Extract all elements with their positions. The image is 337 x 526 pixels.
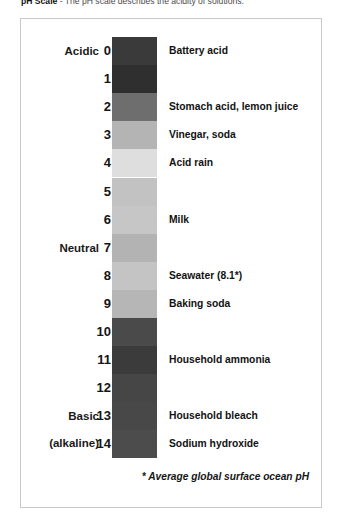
substance-label: Baking soda — [169, 297, 321, 310]
ph-color-band — [112, 262, 157, 290]
footnote: * Average global surface ocean pH — [21, 471, 309, 482]
ph-row: (alkaline)14Sodium hydroxide — [21, 430, 323, 458]
caption-title: pH Scale — [21, 0, 57, 6]
ph-row: 2Stomach acid, lemon juice — [21, 93, 323, 121]
ph-color-band — [112, 206, 157, 234]
ph-value: 14 — [87, 436, 111, 451]
ph-value: 11 — [87, 352, 111, 367]
ph-row: 1 — [21, 65, 323, 93]
substance-label: Vinegar, soda — [169, 128, 321, 141]
ph-color-band — [112, 318, 157, 346]
caption-separator: - — [57, 0, 64, 6]
ph-value: 6 — [87, 212, 111, 227]
ph-color-band — [112, 121, 157, 149]
ph-row: 12 — [21, 374, 323, 402]
ph-row: 6Milk — [21, 206, 323, 234]
substance-label: Acid rain — [169, 156, 321, 169]
ph-value: 1 — [87, 71, 111, 86]
ph-row: 8Seawater (8.1*) — [21, 262, 323, 290]
ph-row: 9Baking soda — [21, 290, 323, 318]
ph-row: 3Vinegar, soda — [21, 121, 323, 149]
ph-color-band — [112, 93, 157, 121]
ph-color-band — [112, 178, 157, 206]
figure-caption: pH Scale - The pH scale describes the ac… — [21, 0, 321, 7]
ph-scale-rows: Acidic0Battery acid12Stomach acid, lemon… — [21, 37, 323, 459]
ph-color-band — [112, 37, 157, 65]
ph-value: 9 — [87, 296, 111, 311]
ph-row: 11Household ammonia — [21, 346, 323, 374]
ph-row: Basic13Household bleach — [21, 402, 323, 430]
substance-label: Stomach acid, lemon juice — [169, 100, 321, 113]
substance-label: Household ammonia — [169, 353, 321, 366]
ph-color-band — [112, 234, 157, 262]
ph-value: 4 — [87, 155, 111, 170]
ph-color-band — [112, 65, 157, 93]
ph-color-band — [112, 374, 157, 402]
ph-value: 5 — [87, 184, 111, 199]
ph-scale-card: Acidic0Battery acid12Stomach acid, lemon… — [20, 18, 322, 508]
ph-color-band — [112, 402, 157, 430]
ph-row: Neutral7 — [21, 234, 323, 262]
ph-row: 5 — [21, 178, 323, 206]
substance-label: Battery acid — [169, 44, 321, 57]
ph-value: 3 — [87, 127, 111, 142]
ph-value: 13 — [87, 408, 111, 423]
caption-text: The pH scale describes the acidity of so… — [65, 0, 244, 6]
ph-value: 0 — [87, 43, 111, 58]
ph-row: 10 — [21, 318, 323, 346]
substance-label: Seawater (8.1*) — [169, 269, 321, 282]
ph-color-band — [112, 430, 157, 458]
ph-color-band — [112, 290, 157, 318]
ph-color-band — [112, 346, 157, 374]
substance-label: Sodium hydroxide — [169, 437, 321, 450]
ph-value: 7 — [87, 240, 111, 255]
substance-label: Household bleach — [169, 409, 321, 422]
substance-label: Milk — [169, 213, 321, 226]
ph-color-band — [112, 149, 157, 177]
ph-value: 8 — [87, 268, 111, 283]
ph-value: 12 — [87, 380, 111, 395]
ph-value: 2 — [87, 99, 111, 114]
ph-row: 4Acid rain — [21, 149, 323, 177]
ph-value: 10 — [87, 324, 111, 339]
ph-row: Acidic0Battery acid — [21, 37, 323, 65]
